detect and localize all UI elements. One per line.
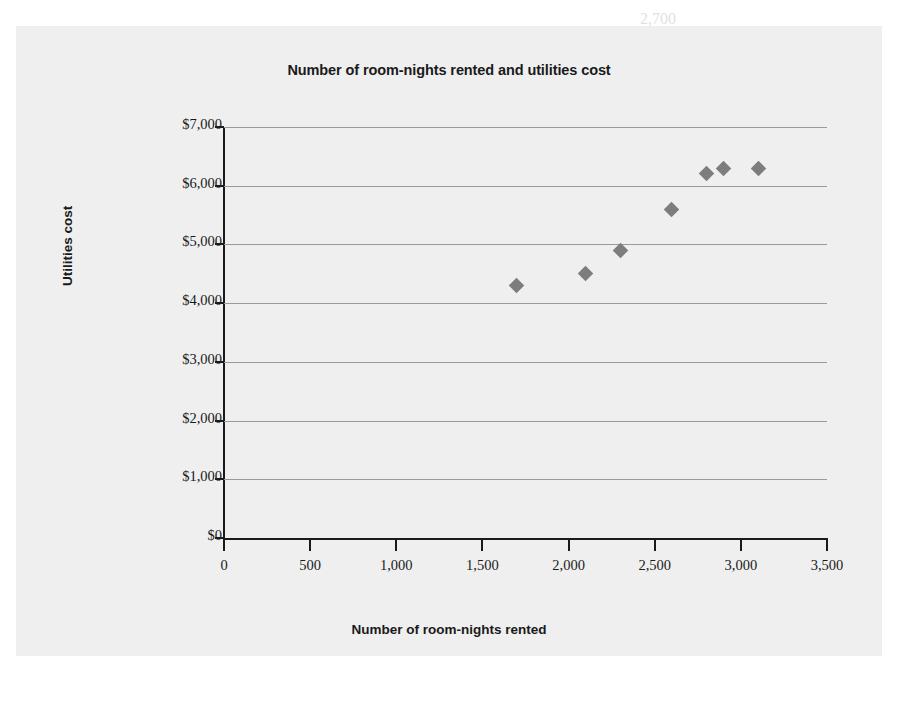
y-tick-label-4000: $4,000: [130, 292, 222, 309]
x-tick-label-0: 0: [184, 557, 264, 574]
gridline-2000: [224, 421, 827, 422]
x-tick-label-2000: 2,000: [529, 557, 609, 574]
x-tick-label-1000: 1,000: [356, 557, 436, 574]
chart-panel: Number of room-nights rented and utiliti…: [16, 26, 882, 656]
x-tick-label-1500: 1,500: [442, 557, 522, 574]
x-tick-0: [223, 540, 225, 551]
x-tick-2000: [568, 540, 570, 551]
x-tick-1000: [395, 540, 397, 551]
gridline-1000: [224, 479, 827, 480]
data-point: [509, 278, 525, 294]
x-tick-label-3000: 3,000: [701, 557, 781, 574]
data-point: [699, 166, 715, 182]
x-tick-500: [309, 540, 311, 551]
x-axis-title: Number of room-nights rented: [16, 622, 882, 637]
data-point: [664, 201, 680, 217]
y-axis-line: [223, 127, 225, 539]
chart-title: Number of room-nights rented and utiliti…: [16, 62, 882, 78]
x-tick-3500: [826, 540, 828, 551]
data-point: [750, 160, 766, 176]
y-tick-label-0: $0: [130, 527, 222, 544]
x-tick-label-3500: 3,500: [787, 557, 867, 574]
x-tick-label-500: 500: [270, 557, 350, 574]
y-tick-label-3000: $3,000: [130, 351, 222, 368]
y-tick-label-7000: $7,000: [130, 116, 222, 133]
x-tick-3000: [740, 540, 742, 551]
gridline-6000: [224, 186, 827, 187]
gridline-3000: [224, 362, 827, 363]
y-tick-label-5000: $5,000: [130, 233, 222, 250]
x-tick-label-2500: 2,500: [615, 557, 695, 574]
y-tick-label-2000: $2,000: [130, 410, 222, 427]
y-tick-label-6000: $6,000: [130, 175, 222, 192]
x-tick-1500: [481, 540, 483, 551]
gridline-5000: [224, 244, 827, 245]
data-point: [578, 266, 594, 282]
gridline-4000: [224, 303, 827, 304]
y-axis-title: Utilities cost: [60, 126, 75, 286]
x-tick-2500: [654, 540, 656, 551]
data-point: [716, 160, 732, 176]
x-axis-line: [223, 538, 828, 540]
gridline-7000: [224, 127, 827, 128]
plot-area: $0$1,000$2,000$3,000$4,000$5,000$6,000$7…: [224, 127, 827, 538]
y-tick-label-1000: $1,000: [130, 468, 222, 485]
